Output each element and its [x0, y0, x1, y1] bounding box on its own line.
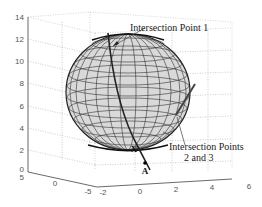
svg-text:8: 8 — [20, 79, 25, 88]
y-axis-ticks: 5 0 -5 — [20, 173, 93, 196]
label-intersection-points-2-3: Intersection Points — [169, 141, 244, 152]
svg-text:0: 0 — [138, 187, 143, 196]
svg-text:12: 12 — [15, 35, 24, 44]
z-axis-ticks: 14 12 10 8 6 4 2 0 — [15, 13, 24, 174]
svg-text:6: 6 — [20, 102, 25, 111]
svg-text:14: 14 — [15, 13, 24, 22]
label-intersection-point-1: Intersection Point 1 — [130, 22, 208, 33]
label-point-a: A — [142, 166, 149, 176]
svg-text:4: 4 — [210, 183, 215, 192]
svg-text:2: 2 — [174, 185, 179, 194]
ellipsoid-3d-plot: 14 12 10 8 6 4 2 0 5 0 -5 -2 0 2 4 6 — [0, 0, 262, 207]
svg-text:6: 6 — [247, 182, 252, 191]
svg-text:4: 4 — [20, 124, 25, 133]
point-a-marker — [143, 161, 147, 165]
label-intersection-points-2-3-line2: 2 and 3 — [184, 152, 213, 163]
svg-text:2: 2 — [20, 146, 25, 155]
svg-text:5: 5 — [20, 173, 25, 182]
label-point-x: X — [131, 144, 138, 154]
svg-text:-2: -2 — [99, 188, 107, 197]
svg-text:10: 10 — [15, 57, 24, 66]
svg-text:-5: -5 — [84, 187, 92, 196]
svg-text:0: 0 — [53, 179, 58, 188]
x-axis-ticks: -2 0 2 4 6 — [99, 182, 251, 197]
ellipsoid-wireframe — [66, 34, 190, 151]
